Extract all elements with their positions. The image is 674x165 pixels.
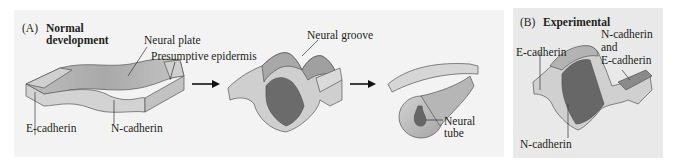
label-b-n-and-e-line1: N-cadherin: [601, 28, 653, 40]
label-b-n-and-e-line3: E-cadherin: [601, 54, 651, 66]
label-neural-groove: Neural groove: [307, 29, 373, 41]
panel-b-title: Experimental: [543, 16, 610, 28]
label-neural-plate: Neural plate: [144, 34, 201, 46]
label-presumptive-epidermis: Presumptive epidermis: [151, 50, 257, 62]
panel-a-title-line1: Normal: [46, 22, 84, 34]
label-e-cadherin: E-cadherin: [26, 122, 76, 134]
arrow-icon: [350, 80, 376, 88]
label-b-e-cadherin: E-cadherin: [516, 46, 566, 58]
arrow-icon: [192, 80, 220, 88]
label-b-n-cadherin: N-cadherin: [520, 138, 572, 150]
label-neural-tube-line1: Neural: [444, 115, 475, 127]
label-b-n-and-e-line2: and: [601, 41, 618, 53]
panel-b-letter: (B): [520, 16, 535, 28]
label-neural-tube-line2: tube: [444, 127, 464, 139]
panel-a-title-line2: development: [46, 34, 109, 46]
label-n-cadherin: N-cadherin: [111, 122, 163, 134]
panel-a-letter: (A): [22, 22, 38, 34]
